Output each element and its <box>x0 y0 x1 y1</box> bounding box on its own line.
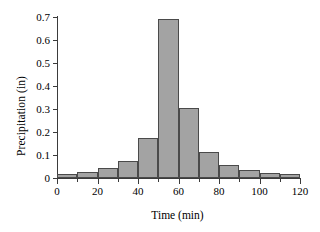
y-tick-label: 0 <box>45 173 51 184</box>
x-axis-minor-tick <box>239 179 240 182</box>
x-axis-minor-tick <box>77 179 78 182</box>
histogram-bar <box>98 168 118 178</box>
histogram-bar <box>239 170 259 178</box>
y-tick-label: 0.6 <box>36 35 50 46</box>
y-axis-tick <box>53 63 57 64</box>
histogram-bar <box>57 174 77 178</box>
y-tick-label: 0.3 <box>36 104 50 115</box>
y-axis-tick <box>53 86 57 87</box>
x-axis-tick <box>138 179 139 184</box>
histogram-bar <box>199 152 219 178</box>
x-tick-label: 80 <box>214 186 225 197</box>
x-axis-minor-tick <box>118 179 119 182</box>
y-tick-label: 0.4 <box>36 81 50 92</box>
y-tick-label: 0.5 <box>36 58 50 69</box>
x-tick-label: 40 <box>133 186 144 197</box>
x-axis-tick <box>57 179 58 184</box>
y-axis-title: Precipitation (in) <box>0 0 18 232</box>
histogram-bar <box>219 165 239 178</box>
precipitation-histogram-figure: Precipitation (in) 00.10.20.30.40.50.60.… <box>0 0 320 232</box>
x-tick-label: 20 <box>92 186 103 197</box>
x-tick-label: 60 <box>173 186 184 197</box>
x-tick-label: 100 <box>251 186 268 197</box>
y-axis-tick <box>53 17 57 18</box>
x-axis-minor-tick <box>199 179 200 182</box>
histogram-bar <box>158 19 178 178</box>
x-tick-label: 0 <box>54 186 60 197</box>
x-axis-tick <box>179 179 180 184</box>
histogram-bar <box>280 174 300 178</box>
y-axis-tick <box>53 109 57 110</box>
y-tick-label: 0.7 <box>36 12 50 23</box>
histogram-bar <box>118 161 138 178</box>
x-axis-tick <box>260 179 261 184</box>
x-axis-tick <box>219 179 220 184</box>
y-axis-tick <box>53 155 57 156</box>
y-axis-title-text: Precipitation (in) <box>15 76 27 156</box>
y-tick-label: 0.1 <box>36 150 50 161</box>
x-axis-minor-tick <box>158 179 159 182</box>
histogram-bar <box>138 138 158 178</box>
y-axis-tick <box>53 132 57 133</box>
x-axis: 020406080100120 <box>57 179 301 209</box>
x-axis-minor-tick <box>280 179 281 182</box>
histogram-bar <box>179 108 199 178</box>
x-axis-tick <box>98 179 99 184</box>
y-tick-label: 0.2 <box>36 127 50 138</box>
y-axis-tick <box>53 40 57 41</box>
plot-area: 00.10.20.30.40.50.60.7 <box>57 17 300 178</box>
histogram-bar <box>77 172 97 178</box>
x-axis-tick <box>300 179 301 184</box>
histogram-bar <box>260 173 280 178</box>
x-axis-title: Time (min) <box>55 209 300 221</box>
x-tick-label: 120 <box>292 186 309 197</box>
